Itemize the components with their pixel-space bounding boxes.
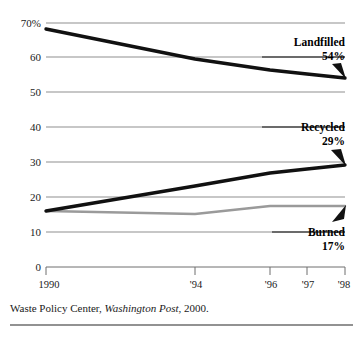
series-burned <box>46 206 345 214</box>
source-publication: Washington Post <box>105 302 180 314</box>
recycled-value: 29% <box>322 135 345 147</box>
annotation-burned: Burned 17% <box>272 205 346 252</box>
series-recycled-line <box>46 165 345 211</box>
x-axis-labels: 1990 '94 '96 '97 '98 <box>39 279 351 290</box>
y-tick-50: 50 <box>30 86 42 98</box>
landfilled-label: Landfilled <box>294 36 346 48</box>
burned-value: 17% <box>322 240 345 252</box>
x-tick-label-98: '98 <box>338 279 350 290</box>
y-tick-60: 60 <box>30 51 42 63</box>
source-prefix: Waste Policy Center, <box>10 302 105 314</box>
y-tick-0: 0 <box>36 261 42 273</box>
y-tick-30: 30 <box>30 156 42 168</box>
recycled-label: Recycled <box>301 121 346 134</box>
x-tick-label-94: '94 <box>190 279 203 290</box>
x-tick-label-96: '96 <box>265 279 277 290</box>
source-line: Waste Policy Center, Washington Post, 20… <box>10 302 209 314</box>
series-recycled <box>46 165 345 211</box>
x-axis <box>46 267 345 275</box>
x-tick-label-97: '97 <box>302 279 314 290</box>
line-chart: 70% 60 50 40 30 20 10 0 1990 '94 '96 '97… <box>0 0 363 339</box>
chart-figure: 70% 60 50 40 30 20 10 0 1990 '94 '96 '97… <box>0 0 363 339</box>
y-tick-70: 70% <box>21 17 41 29</box>
source-suffix: , 2000. <box>178 302 209 314</box>
series-burned-line <box>46 206 345 214</box>
annotation-recycled: Recycled 29% <box>262 121 346 166</box>
landfilled-value: 54% <box>322 50 345 62</box>
burned-arrow <box>332 205 346 222</box>
y-tick-20: 20 <box>30 191 42 203</box>
y-axis-labels: 70% 60 50 40 30 20 10 0 <box>21 17 42 273</box>
x-tick-label-1990: 1990 <box>39 279 60 290</box>
burned-label: Burned <box>308 226 346 238</box>
y-tick-40: 40 <box>30 121 42 133</box>
y-tick-10: 10 <box>30 226 42 238</box>
source-note: Waste Policy Center, Washington Post, 20… <box>10 302 209 314</box>
recycled-arrow <box>331 149 346 166</box>
